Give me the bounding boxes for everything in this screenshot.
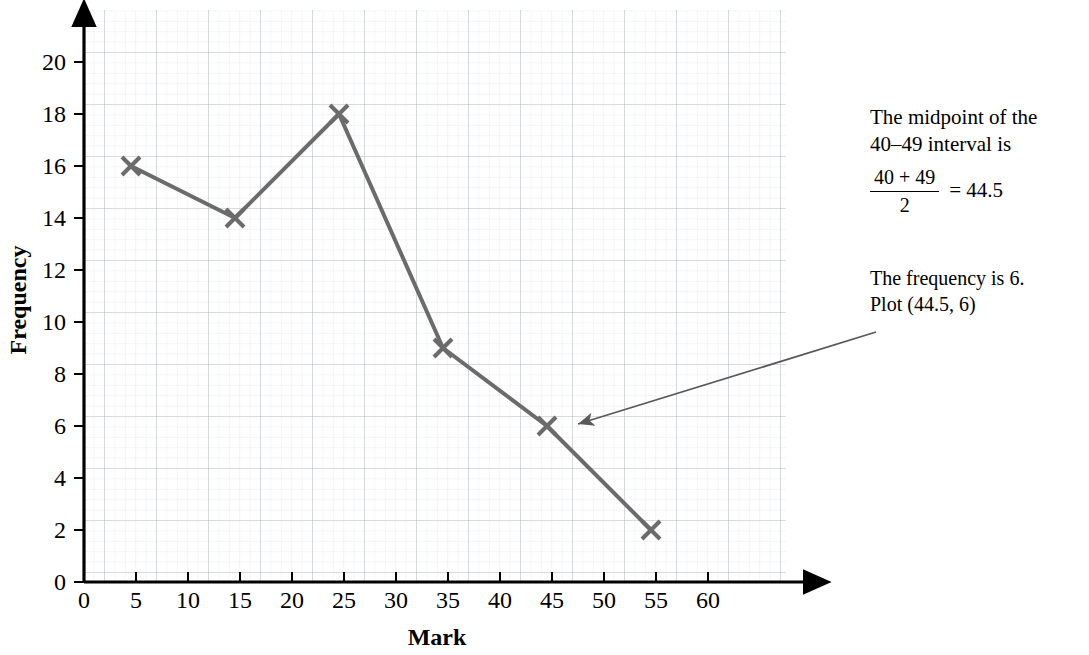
y-tick-label: 12 [42, 257, 66, 283]
x-tick-label: 5 [130, 587, 142, 613]
y-tick-label: 10 [42, 309, 66, 335]
annotation-frequency: The frequency is 6. Plot (44.5, 6) [870, 266, 1024, 317]
x-tick-labels: 0 5 10 15 20 25 30 35 40 45 50 55 60 [78, 587, 720, 613]
y-tick-label: 18 [42, 101, 66, 127]
fraction-denominator: 2 [870, 192, 939, 219]
x-tick-label: 20 [280, 587, 304, 613]
x-tick-label: 0 [78, 587, 90, 613]
x-tick-label: 40 [488, 587, 512, 613]
plot-grid [84, 10, 786, 582]
x-tick-label: 15 [228, 587, 252, 613]
y-tick-label: 2 [54, 517, 66, 543]
y-tick-label: 8 [54, 361, 66, 387]
frequency-polygon-chart: 0 5 10 15 20 25 30 35 40 45 50 55 60 0 2… [0, 0, 1089, 655]
midpoint-fraction: 40 + 49 2 [870, 165, 939, 219]
y-axis-title: Frequency [5, 246, 31, 355]
y-tick-label: 4 [54, 465, 66, 491]
x-tick-label: 50 [592, 587, 616, 613]
x-tick-label: 25 [332, 587, 356, 613]
annotation-midpoint: The midpoint of the 40–49 interval is 40… [870, 104, 1037, 219]
annotation-midpoint-equation: 40 + 49 2 = 44.5 [870, 163, 1037, 219]
fraction-numerator: 40 + 49 [870, 165, 939, 193]
x-tick-label: 10 [176, 587, 200, 613]
x-axis-title: Mark [408, 624, 467, 650]
annotation-frequency-line1: The frequency is 6. [870, 266, 1024, 292]
x-tick-label: 55 [644, 587, 668, 613]
chart-figure: 0 5 10 15 20 25 30 35 40 45 50 55 60 0 2… [0, 0, 1089, 655]
y-tick-label: 6 [54, 413, 66, 439]
y-tick-label: 20 [42, 49, 66, 75]
annotation-frequency-line2: Plot (44.5, 6) [870, 292, 1024, 318]
y-tick-labels: 0 2 4 6 8 10 12 14 16 18 20 [42, 49, 66, 595]
annotation-midpoint-line1: The midpoint of the [870, 104, 1037, 131]
x-tick-label: 60 [696, 587, 720, 613]
y-tick-label: 16 [42, 153, 66, 179]
x-tick-label: 30 [384, 587, 408, 613]
annotation-midpoint-line2: 40–49 interval is [870, 131, 1037, 158]
x-tick-label: 45 [540, 587, 564, 613]
y-tick-label: 14 [42, 205, 66, 231]
x-tick-label: 35 [436, 587, 460, 613]
y-tick-label: 0 [54, 569, 66, 595]
fraction-result: = 44.5 [949, 177, 1003, 204]
